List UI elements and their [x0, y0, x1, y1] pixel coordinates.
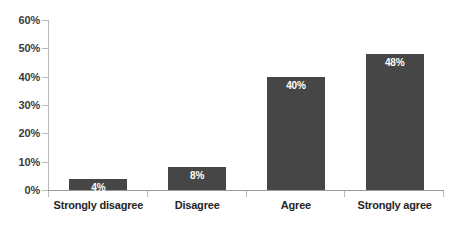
bar-value-label: 4%: [69, 182, 127, 193]
bar[interactable]: 8%: [168, 167, 226, 190]
x-axis-tick: [246, 191, 247, 197]
y-axis-tick-label-wrap: 40%: [0, 71, 40, 83]
bar[interactable]: 40%: [267, 77, 325, 190]
bar-value-label: 40%: [267, 80, 325, 91]
bar-group: 48%: [345, 20, 444, 190]
y-axis-tick-label: 10%: [2, 156, 40, 168]
x-axis-category-label: Agree: [247, 199, 346, 211]
x-axis-category-label: Strongly disagree: [49, 199, 148, 211]
bar-value-label: 8%: [168, 170, 226, 181]
y-axis-tick-label: 50%: [2, 42, 40, 54]
bar-group: 4%: [49, 20, 148, 190]
bar-group: 8%: [148, 20, 247, 190]
y-axis-tick-label-wrap: 50%: [0, 42, 40, 54]
y-axis-tick-label: 30%: [2, 99, 40, 111]
bar[interactable]: 48%: [366, 54, 424, 190]
y-axis-tick: [42, 162, 48, 163]
y-axis-tick: [42, 77, 48, 78]
y-axis-tick-label: 20%: [2, 127, 40, 139]
y-axis-tick-label: 0%: [2, 184, 40, 196]
y-axis-tick: [42, 20, 48, 21]
y-axis-tick: [42, 133, 48, 134]
x-axis-tick: [147, 191, 148, 197]
bar[interactable]: 4%: [69, 179, 127, 190]
x-axis-category-label: Strongly agree: [345, 199, 444, 211]
plot-area: 4%8%40%48%: [49, 20, 444, 190]
y-axis-tick-label-wrap: 0%: [0, 184, 40, 196]
x-axis-tick: [48, 191, 49, 197]
y-axis-tick-label-wrap: 10%: [0, 156, 40, 168]
x-axis-category-label: Disagree: [148, 199, 247, 211]
x-axis-tick: [344, 191, 345, 197]
bar-group: 40%: [247, 20, 346, 190]
y-axis-tick-label-wrap: 20%: [0, 127, 40, 139]
bar-chart: 0%10%20%30%40%50%60% 4%8%40%48% Strongly…: [0, 0, 459, 228]
y-axis-tick-label: 60%: [2, 14, 40, 26]
y-axis-tick-label: 40%: [2, 71, 40, 83]
y-axis-tick: [42, 105, 48, 106]
x-axis-tick: [443, 191, 444, 197]
y-axis-tick: [42, 48, 48, 49]
y-axis-tick-label-wrap: 30%: [0, 99, 40, 111]
y-axis-tick-label-wrap: 60%: [0, 14, 40, 26]
bar-value-label: 48%: [366, 57, 424, 68]
